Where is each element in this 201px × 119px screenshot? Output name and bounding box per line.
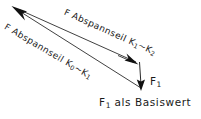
figure-caption: F1 als Basiswert bbox=[99, 96, 191, 110]
caption-prefix: F bbox=[99, 96, 106, 108]
caption-rest: als Basiswert bbox=[110, 96, 191, 108]
top-left-arrowhead-icon bbox=[12, 6, 28, 21]
resultant-vertical-line bbox=[140, 62, 141, 82]
resultant-label-sub: 1 bbox=[156, 80, 161, 89]
resultant-label: F1 bbox=[150, 75, 161, 89]
force-vector-diagram: F Abspannseil K1~K2 F Abspannseil K0~K1 … bbox=[0, 0, 201, 119]
